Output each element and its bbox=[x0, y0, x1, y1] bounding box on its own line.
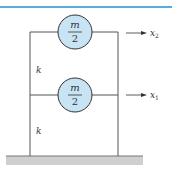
mass-bottom-numerator: m bbox=[70, 82, 79, 93]
x1-subscript: 1 bbox=[155, 94, 159, 101]
x2-subscript: 2 bbox=[155, 32, 159, 39]
svg-text:x2: x2 bbox=[150, 28, 159, 39]
mass-top: m 2 bbox=[58, 15, 92, 49]
spring-lower-label: k bbox=[36, 126, 41, 136]
displacement-x1-arrow: x1 bbox=[126, 90, 159, 101]
mass-top-numerator: m bbox=[70, 19, 79, 30]
two-story-shear-frame-diagram: m 2 m 2 k k x2 x1 bbox=[0, 0, 172, 177]
mass-bottom: m 2 bbox=[58, 78, 92, 112]
ground bbox=[6, 156, 143, 165]
spring-upper-label: k bbox=[36, 65, 41, 75]
displacement-x2-arrow: x2 bbox=[126, 28, 159, 39]
mass-bottom-denominator: 2 bbox=[72, 96, 78, 107]
mass-top-denominator: 2 bbox=[72, 33, 78, 44]
svg-text:x1: x1 bbox=[150, 90, 159, 101]
